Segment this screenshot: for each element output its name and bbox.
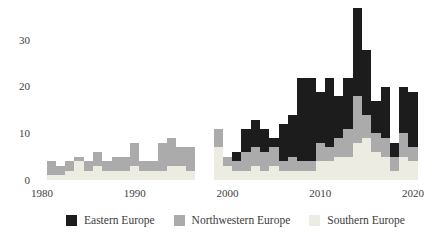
- bar-segment: [408, 147, 417, 161]
- x-tick-label: 2000: [217, 187, 240, 199]
- bar-segment: [353, 8, 362, 96]
- bar-segment: [288, 115, 297, 157]
- bar-segment: [371, 101, 380, 134]
- bar-segment: [371, 133, 380, 152]
- bar-segment: [251, 120, 260, 148]
- bar-segment: [334, 138, 343, 157]
- bar-segment: [186, 147, 195, 170]
- bar-segment: [288, 171, 297, 180]
- bar-segment: [353, 96, 362, 143]
- bar-segment: [334, 157, 343, 180]
- bar-segment: [223, 157, 232, 166]
- bar-segment: [269, 138, 278, 147]
- bar-segment: [269, 166, 278, 180]
- bar-segment: [325, 161, 334, 180]
- bar-segment: [241, 171, 250, 180]
- bar-segment: [56, 166, 65, 175]
- x-tick-label: 1980: [31, 187, 54, 199]
- bar-segment: [353, 143, 362, 180]
- y-tick-label: 20: [19, 80, 31, 92]
- bar-segment: [279, 161, 288, 170]
- bar-segment: [232, 152, 241, 161]
- bar-segment: [381, 157, 390, 180]
- legend-label: Northwestern Europe: [192, 214, 291, 226]
- bar-segment: [297, 171, 306, 180]
- bar-segment: [93, 166, 102, 180]
- bar-segment: [102, 161, 111, 170]
- x-tick-label: 1990: [124, 187, 147, 199]
- bar-segment: [371, 152, 380, 180]
- bar-segment: [232, 161, 241, 170]
- bar-segment: [93, 152, 102, 166]
- bar-segment: [56, 175, 65, 180]
- bar-segment: [167, 138, 176, 166]
- y-tick-label: 0: [25, 174, 31, 186]
- bar-segment: [316, 161, 325, 180]
- bar-segment: [158, 171, 167, 180]
- bar-segment: [130, 143, 139, 166]
- bar-segment: [176, 166, 185, 180]
- legend-item-eastern-europe: Eastern Europe: [66, 214, 155, 226]
- bar-segment: [260, 171, 269, 180]
- bar-segment: [74, 161, 83, 180]
- bar-segment: [288, 157, 297, 171]
- bar-segment: [399, 133, 408, 156]
- bar-segment: [158, 143, 167, 171]
- bar-segment: [306, 78, 315, 162]
- bar-segment: [390, 143, 399, 157]
- bar-segment: [408, 92, 417, 148]
- bar-segment: [167, 166, 176, 180]
- bar-segment: [112, 171, 121, 180]
- bar-segment: [325, 78, 334, 148]
- bar-segment: [316, 143, 325, 162]
- bar-segment: [390, 171, 399, 180]
- bar-segment: [306, 171, 315, 180]
- bar-segment: [279, 124, 288, 161]
- bar-segment: [325, 147, 334, 161]
- bar-segment: [47, 161, 56, 175]
- bar-segment: [334, 96, 343, 138]
- eastern-europe-swatch-icon: [66, 215, 77, 226]
- bar-segment: [269, 147, 278, 166]
- bar-segment: [214, 129, 223, 148]
- bar-segment: [121, 157, 130, 171]
- bar-segment: [112, 157, 121, 171]
- chart-canvas: 010203019801990200020102020: [0, 0, 437, 210]
- y-tick-label: 10: [19, 127, 31, 139]
- bar-segment: [47, 175, 56, 180]
- bar-segment: [139, 171, 148, 180]
- legend-item-southern-europe: Southern Europe: [309, 214, 405, 226]
- bar-segment: [381, 138, 390, 157]
- bar-segment: [149, 161, 158, 170]
- bar-segment: [362, 115, 371, 138]
- bar-segment: [130, 166, 139, 180]
- bar-segment: [279, 171, 288, 180]
- bar-segment: [297, 161, 306, 170]
- bar-segment: [390, 157, 399, 171]
- bar-segment: [399, 87, 408, 134]
- bar-segment: [297, 78, 306, 162]
- bar-segment: [343, 78, 352, 129]
- bar-segment: [251, 166, 260, 180]
- bar-segment: [251, 147, 260, 166]
- bar-segment: [176, 147, 185, 166]
- southern-europe-swatch-icon: [309, 215, 320, 226]
- bar-segment: [74, 157, 83, 162]
- bar-segment: [84, 171, 93, 180]
- bar-segment: [65, 171, 74, 180]
- bar-segment: [186, 171, 195, 180]
- x-tick-label: 2020: [402, 187, 425, 199]
- bar-segment: [232, 171, 241, 180]
- legend-label: Eastern Europe: [84, 214, 155, 226]
- legend-label: Southern Europe: [327, 214, 405, 226]
- chart-legend: Eastern Europe Northwestern Europe South…: [66, 214, 405, 226]
- bar-segment: [362, 138, 371, 180]
- stacked-bar-chart: 010203019801990200020102020 Eastern Euro…: [0, 0, 437, 242]
- bar-segment: [241, 152, 250, 171]
- bar-segment: [343, 129, 352, 157]
- bar-segment: [399, 157, 408, 180]
- bar-segment: [65, 161, 74, 170]
- bar-segment: [241, 129, 250, 152]
- bar-segment: [306, 161, 315, 170]
- legend-item-northwestern-europe: Northwestern Europe: [174, 214, 291, 226]
